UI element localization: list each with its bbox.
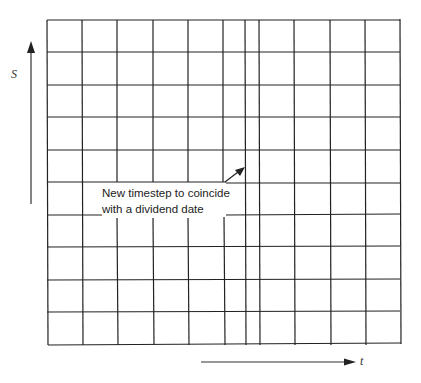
- grid-col-line: [153, 218, 154, 345]
- annotation-arrow-icon: [225, 167, 245, 182]
- grid-col-line: [259, 20, 260, 345]
- grid-col-line: [82, 20, 83, 345]
- grid-col-line: [188, 218, 189, 345]
- s-axis-arrow-icon: [27, 41, 35, 204]
- grid-col-line: [224, 217, 225, 345]
- grid-row-line: [47, 246, 400, 247]
- inserted-timestep-line: [245, 20, 246, 345]
- grid-col-line: [330, 20, 331, 345]
- grid-col-line: [400, 19, 401, 344]
- annotation-text: New timestep to coincide with a dividend…: [102, 185, 230, 217]
- grid-row-line: [47, 279, 400, 280]
- s-axis-label: S: [11, 67, 17, 82]
- t-axis-arrow-icon: [201, 359, 356, 366]
- annotation-line-1: New timestep to coincide: [102, 185, 230, 201]
- annotation-line-2: with a dividend date: [102, 201, 230, 217]
- grid-col-line: [47, 20, 48, 345]
- grid-col-line: [365, 20, 366, 345]
- grid-col-line: [294, 20, 295, 345]
- t-axis-label: t: [360, 354, 363, 369]
- grid-row-line: [226, 214, 400, 215]
- grid-row-line: [47, 311, 400, 312]
- grid: [47, 19, 401, 345]
- grid-col-line: [117, 218, 118, 345]
